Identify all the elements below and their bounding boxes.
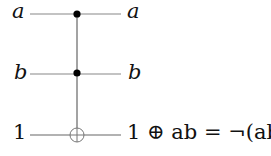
output-label-b: b [128,62,141,83]
output-label-target: 1 ⊕ ab = ¬(ab) [127,122,271,143]
input-label-a: a [12,1,25,22]
input-label-b: b [14,62,27,83]
output-label-a: a [127,1,140,22]
input-label-1: 1 [13,122,26,143]
control-dot-a [73,10,80,17]
control-dot-b [73,69,80,76]
